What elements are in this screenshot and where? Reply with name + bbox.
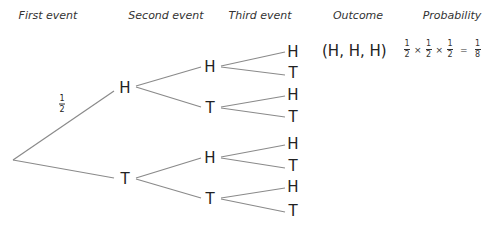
result: 18 <box>475 40 481 59</box>
leaf-ttt: T <box>288 204 297 219</box>
leaf-hhh: H <box>287 45 298 60</box>
times-sign: × <box>414 45 422 55</box>
node-2-th: H <box>204 151 215 166</box>
numerator: 1 <box>475 40 480 48</box>
denominator: 2 <box>448 51 453 59</box>
numerator: 1 <box>59 95 64 103</box>
term-2: 12 <box>426 40 432 59</box>
node-1-tails: T <box>120 172 129 187</box>
numerator: 1 <box>448 40 453 48</box>
times-sign: × <box>436 45 444 55</box>
leaf-thh: H <box>287 137 298 152</box>
node-2-tt: T <box>205 192 214 207</box>
denominator: 2 <box>404 51 409 59</box>
leaf-tth: H <box>287 180 298 195</box>
outcome-hhh: (H, H, H) <box>322 42 387 60</box>
node-2-hh: H <box>204 60 215 75</box>
term-1: 12 <box>404 40 410 59</box>
denominator: 2 <box>59 106 64 114</box>
term-3: 12 <box>447 40 453 59</box>
branch-probability: 1 2 <box>59 95 65 114</box>
leaf-htt: T <box>288 110 297 125</box>
leaf-hht: T <box>288 66 297 81</box>
node-2-ht: T <box>205 101 214 116</box>
numerator: 1 <box>426 40 431 48</box>
node-1-heads: H <box>119 81 130 96</box>
probability-expression: 12 × 12 × 12 = 18 <box>404 40 481 59</box>
denominator: 8 <box>475 51 480 59</box>
leaf-hth: H <box>287 88 298 103</box>
leaf-tht: T <box>288 159 297 174</box>
denominator: 2 <box>426 51 431 59</box>
tree-branches <box>0 0 497 226</box>
equals-sign: = <box>460 45 468 55</box>
numerator: 1 <box>404 40 409 48</box>
